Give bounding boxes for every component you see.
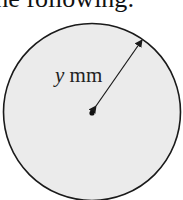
radius-unit: mm [70,63,103,87]
radius-variable: y [53,63,65,87]
circle-diagram: y mm [0,0,183,200]
center-dot [89,110,94,115]
radius-label: y mm [53,63,102,87]
